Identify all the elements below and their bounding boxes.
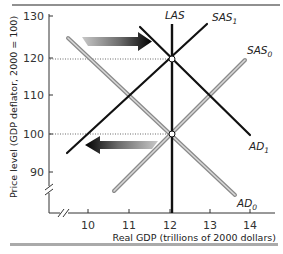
y-axis-title: Price level (GDP deflator, 2000 = 100) xyxy=(8,16,19,198)
ad0-label-sub: 0 xyxy=(252,203,257,212)
x-axis: 10 11 12 13 14 Real GDP (trillions of 20… xyxy=(49,209,276,243)
sas0-label-sub: 0 xyxy=(268,50,273,59)
y-tick-110: 110 xyxy=(23,89,44,102)
y-tick-120: 120 xyxy=(23,52,44,65)
ad1-label-main: AD xyxy=(248,140,264,152)
right-shift-arrow-icon xyxy=(82,32,152,51)
x-tick-10: 10 xyxy=(81,219,95,232)
ad-as-chart: 130 120 110 100 90 Price level (GDP defl… xyxy=(0,0,283,254)
left-shift-arrow-icon xyxy=(85,136,158,154)
bottom-rule xyxy=(10,243,278,246)
y-tick-90: 90 xyxy=(30,166,44,179)
y-axis: 130 120 110 100 90 Price level (GDP defl… xyxy=(8,10,53,213)
lower-equilibrium-point xyxy=(169,131,175,137)
sas0-curve xyxy=(114,60,245,191)
sas1-label-sub: 1 xyxy=(233,17,238,26)
x-tick-14: 14 xyxy=(243,219,257,232)
x-axis-title: Real GDP (trillions of 2000 dollars) xyxy=(113,232,277,243)
x-tick-13: 13 xyxy=(203,219,217,232)
y-tick-100: 100 xyxy=(23,128,44,141)
ad0-curve xyxy=(68,38,235,195)
ad1-label: AD1 xyxy=(248,140,269,155)
sas0-label-main: SAS xyxy=(247,44,268,56)
x-tick-12: 12 xyxy=(163,219,177,232)
sas0-label: SAS0 xyxy=(247,44,273,59)
ad0-label-main: AD xyxy=(236,197,252,209)
ad1-label-sub: 1 xyxy=(264,146,269,155)
las-label: LAS xyxy=(165,9,185,21)
sas1-label: SAS1 xyxy=(212,11,237,26)
y-tick-130: 130 xyxy=(23,10,44,23)
upper-equilibrium-point xyxy=(169,56,175,62)
x-tick-11: 11 xyxy=(122,219,136,232)
ad0-label: AD0 xyxy=(236,197,257,212)
sas1-label-main: SAS xyxy=(212,11,233,23)
